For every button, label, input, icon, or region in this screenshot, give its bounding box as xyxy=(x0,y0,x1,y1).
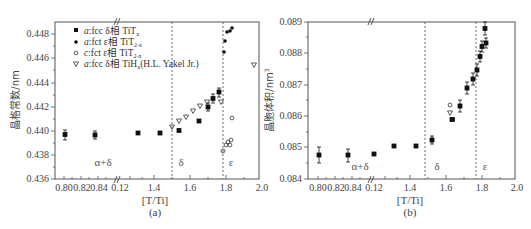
legend-item-0: a:fcc δ相 TiTx xyxy=(84,25,139,37)
region-epsilon-a: ε xyxy=(229,156,234,168)
legend-marker-filled-square xyxy=(74,28,78,32)
ytick-b-2: 0.087 xyxy=(280,79,303,90)
legend-marker-open-triangle xyxy=(74,62,79,67)
series-b-open-markers xyxy=(448,103,453,115)
ytick-a-0: 0.448 xyxy=(27,28,50,39)
series-b-cell-volume xyxy=(317,22,488,163)
xtick-b-0: 0.80 xyxy=(309,182,327,193)
x-axis-label-b: [T/Ti] xyxy=(397,194,424,206)
ytick-b-0: 0.089 xyxy=(280,16,303,27)
xtick-b-2: 0.84 xyxy=(344,182,362,193)
xtick-a-6: 1.8 xyxy=(220,182,233,193)
x-axis-b xyxy=(318,175,500,179)
ytick-a-2: 0.444 xyxy=(27,77,50,88)
y-axis-label-a: 晶格常数/nm xyxy=(9,70,21,129)
region-epsilon-b: ε xyxy=(483,160,488,172)
axis-break-b xyxy=(368,18,374,183)
x-axis-a xyxy=(64,175,244,179)
legend-a: a:fcc δ相 TiTx a:fct ε相 TiT2-x c:fct ε相 T… xyxy=(74,25,199,70)
y-axis-a xyxy=(51,34,55,179)
xtick-a-1: 0.82 xyxy=(73,182,91,193)
ytick-a-3: 0.442 xyxy=(27,101,50,112)
legend-marker-open-circle xyxy=(74,51,78,55)
ytick-b-5: 0.084 xyxy=(280,173,303,184)
xtick-a-4: 1.4 xyxy=(148,182,161,193)
xtick-b-4: 1.4 xyxy=(404,182,417,193)
ytick-a-6: 0.436 xyxy=(27,173,50,184)
figure: 0.448 0.446 0.444 0.442 0.440 0.438 0.43… xyxy=(0,0,531,229)
xtick-a-2: 0.84 xyxy=(90,182,108,193)
legend-marker-filled-circle xyxy=(74,40,78,44)
y-axis-b xyxy=(304,22,308,179)
region-delta-a: δ xyxy=(178,156,183,168)
ytick-b-4: 0.085 xyxy=(280,141,303,152)
ytick-a-1: 0.446 xyxy=(27,52,50,63)
xtick-b-3: 0.12 xyxy=(365,182,383,193)
xtick-a-7: 2.0 xyxy=(256,182,269,193)
region-alpha-delta-a: α+δ xyxy=(94,156,111,168)
legend-item-1: a:fct ε相 TiT2-x xyxy=(84,36,142,48)
ytick-b-1: 0.088 xyxy=(280,47,303,58)
panel-a: 0.448 0.446 0.444 0.442 0.440 0.438 0.43… xyxy=(9,18,268,219)
xtick-b-6: 1.8 xyxy=(476,182,489,193)
xtick-a-3: 0.12 xyxy=(111,182,129,193)
panel-b: 0.089 0.088 0.087 0.086 0.085 0.084 0.80… xyxy=(263,16,523,219)
ytick-b-3: 0.086 xyxy=(280,110,303,121)
xtick-a-5: 1.6 xyxy=(184,182,197,193)
xtick-b-1: 0.82 xyxy=(327,182,345,193)
ytick-a-5: 0.438 xyxy=(27,149,50,160)
legend-item-2: c:fct ε相 TiT2-x xyxy=(84,47,142,59)
panel-caption-b: (b) xyxy=(404,206,417,219)
xtick-b-7: 2.0 xyxy=(511,182,524,193)
panel-caption-a: (a) xyxy=(149,206,162,219)
region-delta-b: δ xyxy=(434,160,439,172)
xtick-b-5: 1.6 xyxy=(440,182,453,193)
x-axis-label-a: [T/Ti] xyxy=(142,194,169,206)
series-a-fcc-delta-TiTx xyxy=(63,88,221,140)
xtick-a-0: 0.80 xyxy=(55,182,73,193)
series-a-fct-epsilon-a xyxy=(222,26,234,54)
ytick-a-4: 0.440 xyxy=(27,125,50,136)
legend-item-3: a:fcc δ相 TiHx(H.L. Yakel Jr.) xyxy=(84,58,199,70)
region-alpha-delta-b: α+δ xyxy=(351,160,368,172)
y-axis-label-b: 晶胞体积/nm3 xyxy=(263,68,275,131)
